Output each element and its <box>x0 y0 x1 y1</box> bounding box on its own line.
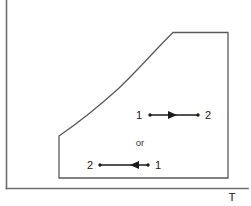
process-upper-end-dot <box>196 113 199 116</box>
process-upper-start-label: 1 <box>136 109 142 121</box>
x-axis-label: T <box>228 191 235 203</box>
process-lower-start-dot <box>98 163 101 166</box>
process-upper-start-dot <box>148 113 151 116</box>
or-connector-label: or <box>136 137 144 148</box>
process-lower-end-label: 1 <box>155 159 161 171</box>
process-upper-end-label: 2 <box>205 109 211 121</box>
arrow-left-icon <box>130 161 139 169</box>
saturation-dome-outline <box>59 33 228 179</box>
arrow-right-icon <box>168 111 177 119</box>
diagram-canvas: 1 2 or 2 1 T <box>0 0 251 206</box>
phase-diagram-figure: 1 2 or 2 1 T <box>0 0 251 206</box>
process-lower-group: 2 1 <box>87 159 161 171</box>
process-upper-group: 1 2 <box>136 109 211 121</box>
process-lower-end-dot <box>146 163 149 166</box>
process-lower-start-label: 2 <box>87 159 93 171</box>
